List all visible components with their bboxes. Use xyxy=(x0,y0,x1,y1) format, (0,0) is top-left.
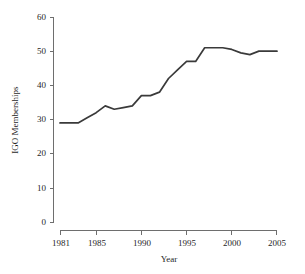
y-tick-label-10: 10 xyxy=(37,183,47,193)
y-tick-label-0: 0 xyxy=(42,217,47,227)
x-tick-label-1995: 1995 xyxy=(178,238,197,248)
line-chart: 60 50 40 30 20 10 0 1981 1985 1990 1995 … xyxy=(0,0,305,274)
y-tick-label-60: 60 xyxy=(37,12,47,22)
x-tick-label-1990: 1990 xyxy=(133,238,152,248)
y-tick-label-40: 40 xyxy=(37,80,47,90)
y-tick-label-20: 20 xyxy=(37,148,47,158)
series-line-igo-memberships xyxy=(60,48,277,123)
y-axis-ticks xyxy=(50,17,54,222)
y-tick-label-30: 30 xyxy=(37,114,47,124)
x-axis-ticks xyxy=(61,231,277,236)
x-tick-label-2000: 2000 xyxy=(223,238,242,248)
x-axis-title: Year xyxy=(161,254,178,264)
chart-figure: 60 50 40 30 20 10 0 1981 1985 1990 1995 … xyxy=(0,0,305,274)
x-axis-tick-labels: 1981 1985 1990 1995 2000 2005 xyxy=(52,238,287,248)
x-tick-label-1981: 1981 xyxy=(52,238,70,248)
y-tick-label-50: 50 xyxy=(37,46,47,56)
y-axis-title: IGO Memberships xyxy=(10,86,20,154)
x-tick-label-1985: 1985 xyxy=(88,238,107,248)
x-tick-label-2005: 2005 xyxy=(268,238,287,248)
y-axis-tick-labels: 60 50 40 30 20 10 0 xyxy=(37,12,47,227)
